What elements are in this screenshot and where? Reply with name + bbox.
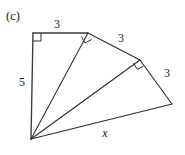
right-angle-marker-third — [134, 64, 144, 70]
label-side-3-right: 3 — [164, 67, 170, 79]
segment-leg-3-second — [88, 33, 140, 60]
part-label: (c) — [6, 10, 20, 23]
segment-hypotenuse-1 — [31, 33, 88, 139]
label-side-x: x — [102, 127, 107, 139]
segment-hypotenuse-2 — [31, 60, 140, 139]
label-side-3-top: 3 — [54, 18, 60, 30]
geometry-figure: (c) 5 3 3 3 x — [0, 0, 185, 155]
label-side-5: 5 — [19, 76, 25, 88]
figure-drawing-canvas — [0, 0, 185, 155]
right-angle-marker-top-left — [33, 33, 41, 41]
label-side-3-middle: 3 — [118, 32, 124, 44]
segment-vertical-leg-5 — [31, 33, 33, 139]
